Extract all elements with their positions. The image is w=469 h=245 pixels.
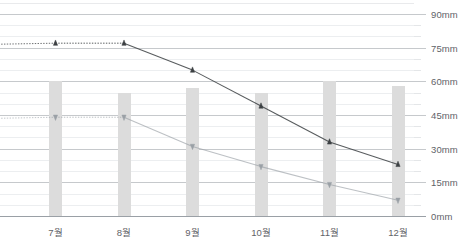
- y-tick-mark: [414, 14, 426, 15]
- y-tick-mark: [414, 216, 426, 217]
- y-tick-mark: [414, 182, 426, 183]
- data-point-marker-12월: [396, 198, 400, 203]
- y-axis-tick-label: 15mm: [431, 177, 458, 188]
- plot-area: 7월8월9월10월11월12월: [0, 0, 414, 245]
- y-axis-tick-label: 75mm: [431, 42, 458, 53]
- y-axis-tick-label: 0mm: [431, 211, 452, 222]
- y-axis: 0mm15mm30mm45mm60mm75mm90mm: [414, 0, 469, 245]
- rainfall-chart: 7월8월9월10월11월12월 0mm15mm30mm45mm60mm75mm9…: [0, 0, 469, 245]
- y-tick-mark: [414, 149, 426, 150]
- y-tick-mark: [414, 160, 421, 161]
- series-segment: [124, 43, 193, 70]
- y-tick-mark: [414, 205, 421, 206]
- series-segment: [261, 106, 330, 142]
- y-axis-tick-label: 90mm: [431, 9, 458, 20]
- series-segment: [193, 146, 262, 166]
- series-segment: [261, 167, 330, 185]
- x-axis-label-9월: 9월: [185, 225, 199, 239]
- y-tick-mark: [414, 81, 426, 82]
- x-axis-label-8월: 8월: [117, 225, 131, 239]
- x-axis-label-10월: 10월: [251, 225, 271, 239]
- y-tick-mark: [414, 171, 421, 172]
- y-tick-mark: [414, 36, 421, 37]
- y-tick-mark: [414, 194, 421, 195]
- series-segment: [193, 70, 262, 106]
- series-segment: [124, 117, 193, 146]
- y-tick-mark: [414, 93, 421, 94]
- data-point-marker-7월: [53, 115, 57, 120]
- series-lower-series: [0, 115, 400, 203]
- y-tick-mark: [414, 25, 421, 26]
- series-lead-in: [0, 43, 56, 44]
- y-tick-mark: [414, 104, 421, 105]
- y-tick-mark: [414, 126, 421, 127]
- series-lead-in: [0, 117, 56, 118]
- y-axis-tick-label: 30mm: [431, 143, 458, 154]
- y-tick-mark: [414, 48, 426, 49]
- x-axis-label-11월: 11월: [320, 225, 339, 239]
- data-point-marker-7월: [53, 40, 57, 45]
- series-layer: [0, 0, 414, 245]
- y-axis-tick-label: 45mm: [431, 110, 458, 121]
- data-point-marker-8월: [122, 40, 126, 45]
- y-tick-mark: [414, 137, 421, 138]
- y-tick-mark: [414, 59, 421, 60]
- y-tick-mark: [414, 115, 426, 116]
- y-axis-tick-label: 60mm: [431, 76, 458, 87]
- x-axis-label-12월: 12월: [388, 225, 408, 239]
- y-tick-mark: [414, 70, 421, 71]
- series-upper-series: [0, 40, 400, 167]
- series-segment: [330, 185, 399, 201]
- x-axis-label-7월: 7월: [48, 225, 62, 239]
- series-segment: [330, 142, 399, 164]
